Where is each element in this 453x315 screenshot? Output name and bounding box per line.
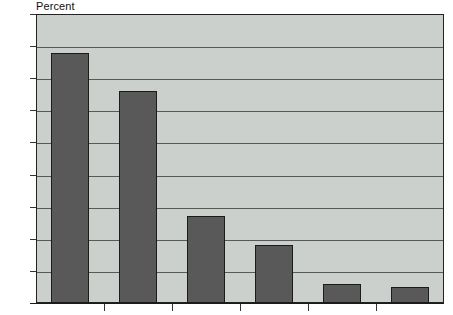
gridline bbox=[37, 47, 443, 48]
y-axis-tick-mark bbox=[30, 175, 36, 176]
y-axis-tick-mark bbox=[30, 78, 36, 79]
plot-area bbox=[36, 14, 444, 303]
x-axis-tick-mark bbox=[172, 304, 173, 311]
y-axis-tick-mark bbox=[30, 110, 36, 111]
y-axis-tick-mark bbox=[30, 142, 36, 143]
plot-inner bbox=[37, 15, 443, 302]
bar-chart: Percent 051015202530354045 bbox=[0, 0, 453, 315]
x-axis-tick-mark bbox=[240, 304, 241, 311]
y-axis-label: Percent bbox=[36, 0, 75, 13]
y-axis-tick-mark bbox=[30, 271, 36, 272]
y-axis-tick-mark bbox=[30, 207, 36, 208]
bar bbox=[323, 284, 361, 303]
x-axis-tick-mark bbox=[104, 304, 105, 311]
y-axis-tick-mark bbox=[30, 239, 36, 240]
bar bbox=[255, 245, 293, 303]
gridline bbox=[37, 111, 443, 112]
bar bbox=[51, 53, 89, 303]
x-axis-line bbox=[30, 303, 444, 304]
gridline bbox=[37, 208, 443, 209]
x-axis-tick-mark bbox=[376, 304, 377, 311]
x-axis-tick-mark bbox=[308, 304, 309, 311]
gridline bbox=[37, 79, 443, 80]
bar bbox=[187, 216, 225, 303]
gridline bbox=[37, 272, 443, 273]
bar bbox=[119, 91, 157, 303]
y-axis-tick-mark bbox=[30, 46, 36, 47]
gridline bbox=[37, 240, 443, 241]
y-axis-tick-mark bbox=[30, 14, 36, 15]
gridline bbox=[37, 176, 443, 177]
gridline bbox=[37, 143, 443, 144]
bar bbox=[391, 287, 429, 303]
